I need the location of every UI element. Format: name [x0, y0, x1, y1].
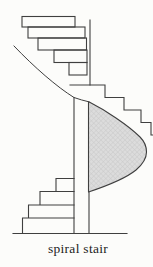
plan-tread-1 [22, 17, 75, 28]
plan-tread-4 [54, 50, 87, 63]
center-pole [74, 20, 90, 233]
spiral-soffit-shade [89, 102, 147, 192]
upper-flight-plan-treads [22, 17, 87, 76]
plan-tread-3 [38, 38, 87, 50]
plan-tread-2 [28, 27, 85, 38]
figure-caption: spiral stair [48, 241, 108, 256]
figure-panel: spiral stair [0, 0, 153, 267]
plan-tread-5 [69, 63, 87, 76]
lower-flight-step-profile [23, 179, 75, 234]
lower-flight-steps [23, 179, 75, 234]
spiral-stair-figure: spiral stair [0, 0, 153, 267]
helix-curve [14, 46, 89, 102]
